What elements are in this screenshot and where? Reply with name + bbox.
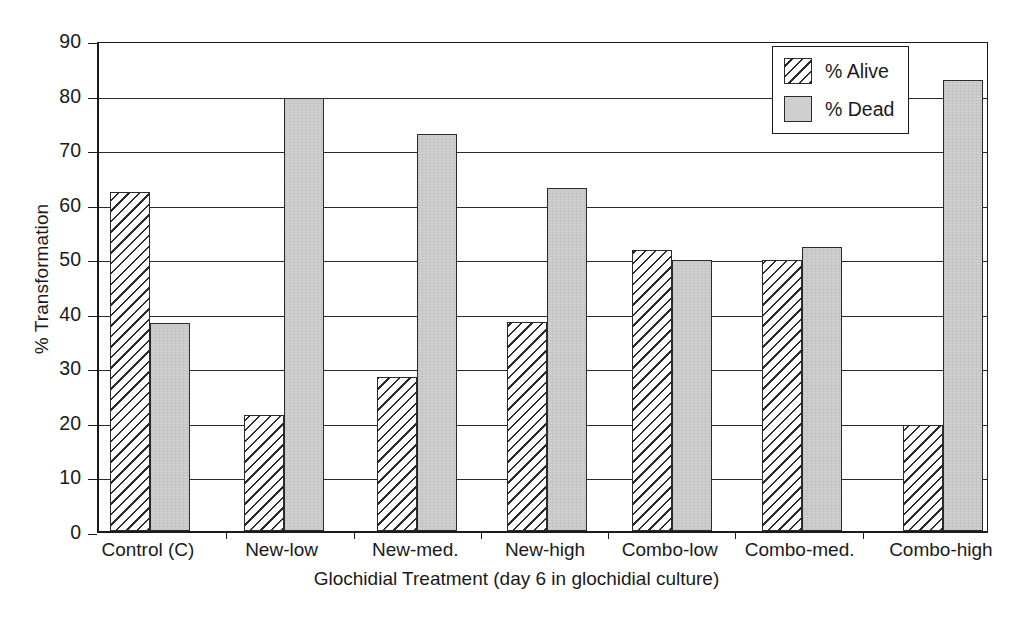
x-axis-title: Glochidial Treatment (day 6 in glochidia…: [0, 568, 1033, 590]
y-axis-tick-mark: [88, 43, 97, 44]
legend-label-dead: % Dead: [825, 98, 894, 121]
y-axis-tick-label: 40: [21, 305, 81, 325]
bar-alive: [244, 415, 284, 531]
bar-alive: [632, 250, 672, 532]
bar-alive: [507, 322, 547, 531]
gridline: [99, 316, 987, 317]
gridline: [99, 261, 987, 262]
y-axis-tick-mark: [88, 98, 97, 99]
x-axis-separator-tick: [608, 531, 609, 539]
y-axis-tick-label: 10: [21, 469, 81, 489]
bar-alive: [377, 377, 417, 531]
bar-alive: [110, 192, 150, 531]
y-axis-tick-mark: [88, 370, 97, 371]
legend-swatch-dead-icon: [784, 96, 812, 122]
y-axis-tick-mark: [88, 425, 97, 426]
legend-label-alive: % Alive: [825, 60, 889, 83]
bar-chart-figure: % Transformation 0102030405060708090 Con…: [0, 0, 1033, 617]
bar-dead: [150, 323, 190, 531]
y-axis-tick-mark: [88, 152, 97, 153]
bar-dead: [802, 247, 842, 531]
x-axis-separator-tick: [354, 531, 355, 539]
bar-dead: [943, 80, 983, 531]
y-axis-tick-label: 90: [21, 32, 81, 52]
y-axis-tick-label: 20: [21, 414, 81, 434]
legend-swatch-alive-icon: [784, 58, 812, 84]
y-axis-tick-label: 60: [21, 196, 81, 216]
y-axis-tick-label: 80: [21, 87, 81, 107]
y-axis-tick-mark: [88, 261, 97, 262]
x-axis-separator-tick: [226, 531, 227, 539]
gridline: [99, 152, 987, 153]
x-axis-separator-tick: [863, 531, 864, 539]
bar-alive: [762, 260, 802, 531]
x-axis-separator-tick: [481, 531, 482, 539]
y-axis-tick-mark: [88, 316, 97, 317]
x-axis-separator-tick: [735, 531, 736, 539]
y-axis-tick-mark: [88, 207, 97, 208]
bar-dead: [547, 188, 587, 531]
y-axis-tick-label: 30: [21, 360, 81, 380]
bar-dead: [672, 260, 712, 531]
y-axis-tick-label: 70: [21, 141, 81, 161]
y-axis-tick-mark: [88, 534, 97, 535]
gridline: [99, 207, 987, 208]
y-axis-tick-label: 50: [21, 250, 81, 270]
legend-item-alive: % Alive: [784, 56, 894, 86]
bar-alive: [903, 425, 943, 531]
bar-dead: [284, 98, 324, 531]
x-axis-category-label: Combo-high: [841, 540, 1033, 561]
bar-dead: [417, 134, 457, 531]
legend-item-dead: % Dead: [784, 94, 894, 124]
chart-legend: % Alive % Dead: [772, 46, 909, 134]
y-axis-tick-mark: [88, 479, 97, 480]
